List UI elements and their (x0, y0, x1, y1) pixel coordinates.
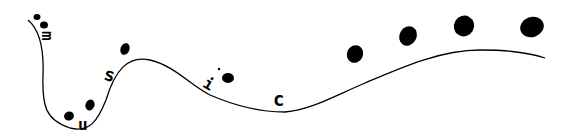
dot-icon (34, 14, 41, 20)
dot-icon (119, 42, 132, 56)
dot-icon (40, 22, 48, 29)
dot-icon (450, 12, 478, 40)
letter-s: s (102, 63, 118, 86)
dot-icon (63, 110, 75, 122)
dot-icon (344, 42, 366, 65)
music-logo-illustration: m u s i c (0, 0, 566, 137)
letter-m: m (38, 31, 57, 41)
dot-icon (517, 13, 546, 40)
letter-u: u (78, 115, 88, 134)
dot-icon (84, 98, 96, 111)
letter-c: c (273, 88, 284, 110)
dot-icon (396, 23, 421, 49)
dot-icon (222, 73, 234, 83)
